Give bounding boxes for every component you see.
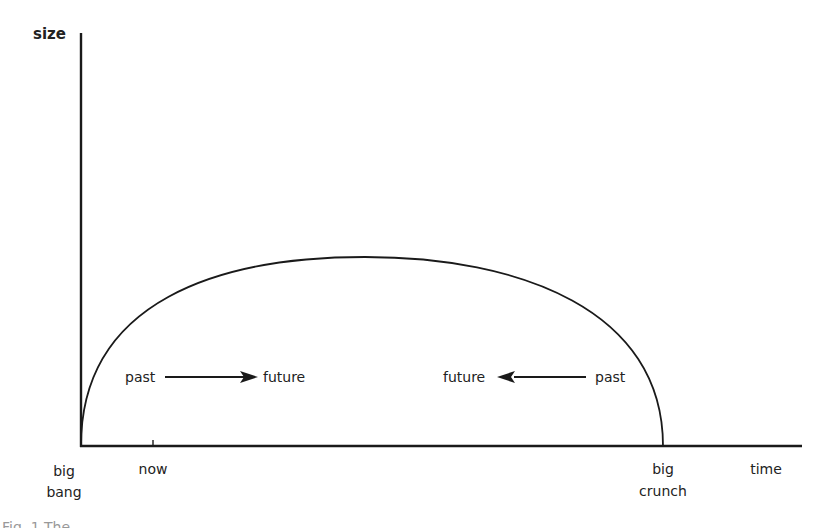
big-bang-label-line1: big: [44, 461, 84, 481]
big-crunch-label-line2: crunch: [628, 481, 698, 501]
figure-caption-text: Fig. 1 The ...: [0, 517, 826, 528]
arrow-right-icon: [165, 371, 258, 383]
figure-caption: Fig. 1 The ...: [0, 517, 826, 528]
left-past-label: past: [125, 367, 155, 387]
arrow-left-icon: [497, 371, 586, 383]
big-bang-label-line2: bang: [44, 482, 84, 502]
diagram-canvas: [0, 0, 826, 528]
y-axis-label: size: [33, 24, 66, 44]
right-past-label: past: [595, 367, 625, 387]
x-axis-label: time: [741, 459, 791, 479]
big-crunch-label-line1: big: [628, 459, 698, 479]
now-label: now: [128, 459, 178, 479]
right-future-label: future: [443, 367, 485, 387]
universe-size-curve: [81, 257, 663, 446]
cosmology-diagram: size time big bang now big crunch past f…: [0, 0, 826, 528]
left-future-label: future: [263, 367, 305, 387]
